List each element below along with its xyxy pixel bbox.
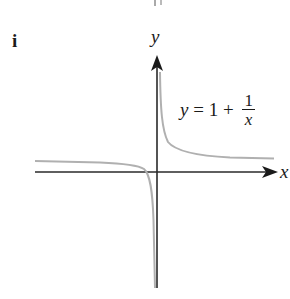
curve-left-branch [35, 161, 155, 288]
curve-right-branch [160, 72, 274, 159]
graph-canvas [0, 0, 290, 299]
